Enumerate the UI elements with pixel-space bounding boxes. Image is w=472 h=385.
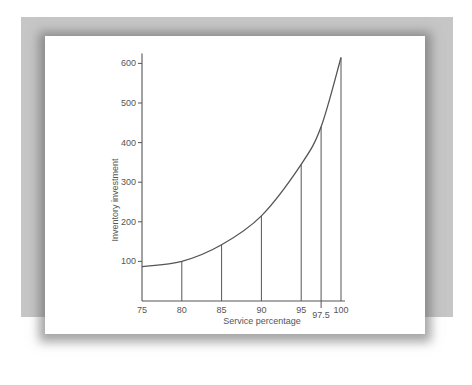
y-tick-label: 200 [121,217,136,227]
y-tick-label: 300 [121,177,136,187]
x-tick-label: 97.5 [312,310,330,320]
chart: 100200300400500600758085909597.5100 Serv… [0,0,472,385]
x-tick-label: 80 [177,305,187,315]
y-tick-label: 500 [121,98,136,108]
drop-lines [182,57,341,301]
x-axis-title: Service percentage [223,316,301,326]
inventory-curve [142,57,341,266]
ticks: 100200300400500600758085909597.5100 [121,58,349,320]
y-tick-label: 600 [121,58,136,68]
x-tick-label: 85 [217,305,227,315]
y-tick-label: 100 [121,256,136,266]
y-tick-label: 400 [121,138,136,148]
y-axis-title: Inventory investment [110,158,120,242]
x-tick-label: 90 [256,305,266,315]
x-tick-label: 100 [333,305,348,315]
x-tick-label: 95 [296,305,306,315]
x-tick-label: 75 [137,305,147,315]
